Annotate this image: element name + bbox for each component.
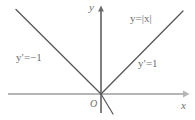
curve-equation-label: y=|x| <box>130 13 152 24</box>
left-branch-derivative-label: y′=−1 <box>16 52 42 63</box>
tangent-stub-below-origin <box>101 94 113 114</box>
absolute-value-graph-figure: y=|x| y′=−1 y′=1 y x O <box>0 0 195 120</box>
right-branch-derivative-label: y′=1 <box>138 58 158 69</box>
origin-label: O <box>90 99 97 109</box>
y-axis-arrowhead-icon <box>98 6 104 12</box>
x-axis-label: x <box>181 100 186 111</box>
x-axis-arrowhead-icon <box>183 91 190 98</box>
y-axis-label: y <box>89 2 94 13</box>
